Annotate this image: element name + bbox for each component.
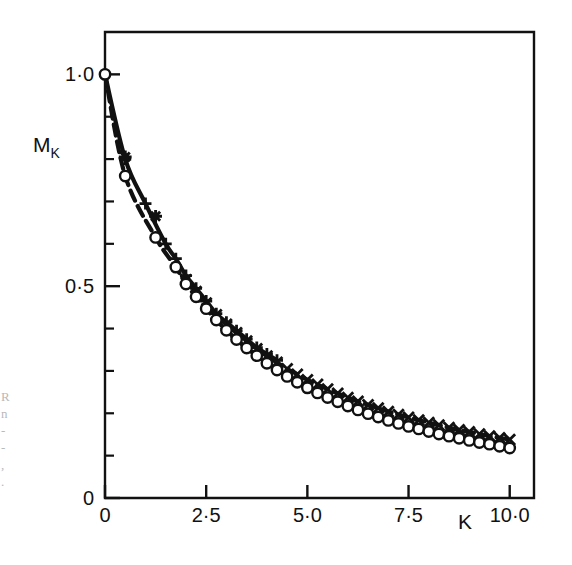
x-tick-label: 5·0 xyxy=(293,504,322,526)
scan-edge-artifact: Rn--,. xyxy=(1,388,10,490)
x-axis-title: K xyxy=(458,510,472,533)
chart-canvas: 02·55·07·510·0 00·51·0 MK K xyxy=(0,0,572,565)
edge-artifact-glyph: R xyxy=(1,388,10,405)
marker-circle xyxy=(221,325,231,335)
plot-frame xyxy=(105,32,534,498)
y-tick-label: 0 xyxy=(83,487,94,509)
marker-circle xyxy=(272,365,282,375)
marker-circle xyxy=(171,262,181,272)
marker-circle xyxy=(231,334,241,344)
marker-circle xyxy=(262,358,272,368)
edge-artifact-glyph: n xyxy=(1,405,10,422)
marker-circle xyxy=(241,343,251,353)
marker-circle xyxy=(484,439,494,449)
marker-circle xyxy=(252,350,262,360)
marker-circle xyxy=(201,303,211,313)
marker-circle xyxy=(383,415,393,425)
marker-circle xyxy=(474,437,484,447)
marker-circle xyxy=(120,171,130,181)
edge-artifact-glyph: . xyxy=(1,473,10,490)
marker-circle xyxy=(333,397,343,407)
marker-circle xyxy=(403,421,413,431)
marker-circle xyxy=(181,279,191,289)
marker-circle xyxy=(424,426,434,436)
marker-asterisk xyxy=(119,151,132,164)
marker-circle xyxy=(494,441,504,451)
marker-circle xyxy=(464,435,474,445)
frame-box xyxy=(105,32,534,498)
y-tick-labels: 00·51·0 xyxy=(65,63,94,509)
x-tick-label: 10·0 xyxy=(490,504,530,526)
marker-circle xyxy=(413,424,423,434)
y-axis-title: MK xyxy=(33,133,61,161)
marker-circle xyxy=(373,412,383,422)
y-tick-label: 0·5 xyxy=(65,275,94,297)
marker-circle xyxy=(211,315,221,325)
edge-artifact-glyph: - xyxy=(1,439,10,456)
marker-circle xyxy=(100,69,110,79)
marker-asterisk xyxy=(149,210,162,223)
curve-upper-plus xyxy=(105,74,277,360)
marker-circle xyxy=(393,418,403,428)
marker-circle xyxy=(454,433,464,443)
marker-circle xyxy=(322,392,332,402)
marker-circle xyxy=(312,388,322,398)
marker-circle xyxy=(505,443,515,453)
marker-circle xyxy=(343,401,353,411)
marker-circle xyxy=(292,377,302,387)
marker-circle xyxy=(353,405,363,415)
edge-artifact-glyph: - xyxy=(1,422,10,439)
data-markers xyxy=(99,68,515,453)
marker-circle xyxy=(363,408,373,418)
marker-circle xyxy=(150,232,160,242)
marker-circle xyxy=(444,431,454,441)
y-tick-label: 1·0 xyxy=(65,63,94,85)
curve-upper-cross xyxy=(186,280,510,440)
marker-circle xyxy=(282,371,292,381)
x-tick-label: 0 xyxy=(99,504,110,526)
x-tick-label: 7·5 xyxy=(394,504,423,526)
marker-circle xyxy=(191,292,201,302)
marker-circle xyxy=(302,383,312,393)
edge-artifact-glyph: , xyxy=(1,456,10,473)
marker-circle xyxy=(434,429,444,439)
figure-container: 02·55·07·510·0 00·51·0 MK K Rn--,. xyxy=(0,0,572,565)
x-tick-label: 2·5 xyxy=(192,504,221,526)
